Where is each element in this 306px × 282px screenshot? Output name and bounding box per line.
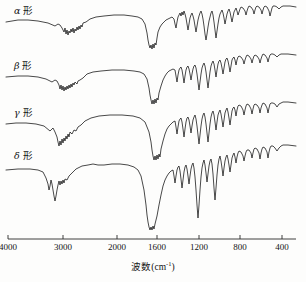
x-axis-title-unit-open: (cm [151,262,166,272]
spectrum-curve-beta [6,54,296,104]
curve-label-text-beta: 形 [20,61,33,71]
spectra-plot [0,0,306,282]
x-axis-tick-label-1600: 1600 [148,242,166,252]
curve-label-gamma: γ 形 [14,105,33,119]
x-axis-tick-label-1200: 1200 [190,242,208,252]
curve-label-text-alpha: 形 [21,6,34,16]
spectrum-curve-delta [6,145,296,230]
curve-label-text-gamma: 形 [20,108,33,118]
curve-label-alpha: α 形 [14,3,34,17]
x-axis-title: 波数(cm-1) [0,259,306,273]
x-axis-group [8,235,296,239]
x-axis-tick-label-800: 800 [233,242,247,252]
x-axis-tick-label-4000: 4000 [0,242,17,252]
x-axis-title-main: 波数 [131,262,151,272]
x-axis-title-unit-close: ) [172,262,175,272]
spectra-curves-group [6,6,296,230]
x-axis-tick-label-3000: 3000 [54,242,72,252]
spectrum-curve-alpha [6,6,296,49]
curve-label-text-delta: 形 [20,151,33,161]
x-axis-tick-label-2000: 2000 [108,242,126,252]
curve-label-delta: δ 形 [14,148,33,162]
curve-label-beta: β 形 [14,58,33,72]
x-axis-tick-label-400: 400 [275,242,289,252]
ir-spectra-figure: α 形β 形γ 形δ 形 40003000200016001200800400 … [0,0,306,282]
spectrum-curve-gamma [6,102,296,160]
curve-label-glyph-alpha: α [14,5,21,16]
